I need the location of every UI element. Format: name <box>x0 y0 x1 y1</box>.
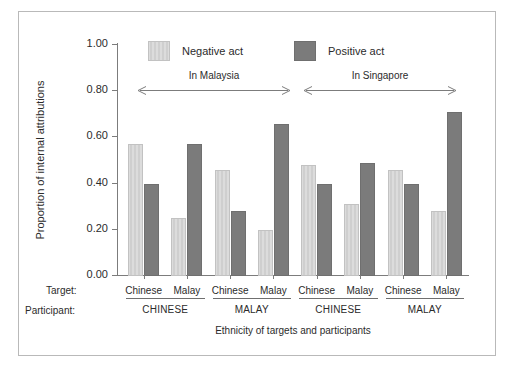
x-axis-tick <box>273 275 274 279</box>
x-participant-label: CHINESE <box>126 304 205 315</box>
bar-positive-act <box>144 184 159 276</box>
bar-negative-act <box>388 170 403 276</box>
x-axis-tick <box>144 275 145 279</box>
bar-negative-act <box>344 204 359 276</box>
bar-positive-act <box>231 211 246 276</box>
x-target-label: Malay <box>420 285 472 296</box>
data-point-marker <box>289 196 291 198</box>
bar-negative-act <box>128 144 143 276</box>
x-participant-label: CHINESE <box>299 304 378 315</box>
bar-positive-act <box>404 184 419 276</box>
x-participant-label: MALAY <box>386 304 465 315</box>
legend-swatch-positive <box>294 41 316 61</box>
bar-positive-act <box>360 163 375 276</box>
participant-group-rule <box>213 298 292 299</box>
bracket-arrow-singapore <box>300 86 460 95</box>
x-axis-tick <box>403 275 404 279</box>
bar-negative-act <box>258 230 273 276</box>
bar-positive-act <box>447 112 462 276</box>
x-axis-tick <box>446 275 447 279</box>
legend-label-positive: Positive act <box>328 45 384 57</box>
bracket-label-malaysia: In Malaysia <box>134 70 294 81</box>
x-participant-label: MALAY <box>213 304 292 315</box>
x-axis-tick <box>230 275 231 279</box>
bar-positive-act <box>317 184 332 276</box>
legend-swatch-negative <box>148 41 170 61</box>
bar-positive-act <box>274 124 289 276</box>
row-caption-participant: Participant: <box>25 305 75 316</box>
x-axis-tick <box>187 275 188 279</box>
bars-layer <box>0 0 516 276</box>
participant-group-rule <box>299 298 378 299</box>
bracket-label-singapore: In Singapore <box>300 70 460 81</box>
bar-negative-act <box>171 218 186 276</box>
bar-negative-act <box>215 170 230 276</box>
chart-plot: 1.000.800.600.400.200.00 Proportion of i… <box>0 0 516 377</box>
x-axis-tick <box>317 275 318 279</box>
x-axis-tick <box>360 275 361 279</box>
bracket-arrow-malaysia <box>134 86 294 95</box>
bar-positive-act <box>187 144 202 276</box>
bar-negative-act <box>301 165 316 276</box>
row-caption-target: Target: <box>46 285 77 296</box>
participant-group-rule <box>386 298 465 299</box>
x-axis-title: Ethnicity of targets and participants <box>117 325 469 336</box>
participant-group-rule <box>126 298 205 299</box>
bar-negative-act <box>431 211 446 276</box>
legend-label-negative: Negative act <box>182 45 243 57</box>
